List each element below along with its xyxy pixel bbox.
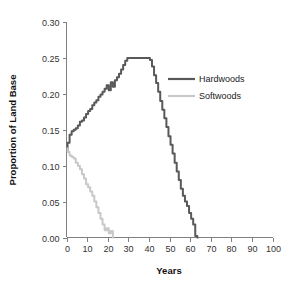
x-tick-label: 30 <box>123 244 133 254</box>
y-tick-label: 0.00 <box>42 234 60 244</box>
x-tick-label: 0 <box>65 244 70 254</box>
x-tick-label: 100 <box>266 244 281 254</box>
chart-container: 0.000.050.100.150.200.250.30 01020304050… <box>0 0 289 296</box>
y-tick-label: 0.05 <box>42 198 60 208</box>
y-tick-label: 0.20 <box>42 90 60 100</box>
legend-label-softwoods: Softwoods <box>199 91 242 101</box>
x-axis-title: Years <box>156 265 181 276</box>
x-tick-label: 50 <box>165 244 175 254</box>
x-tick-label: 10 <box>82 244 92 254</box>
line-chart: 0.000.050.100.150.200.250.30 01020304050… <box>0 0 289 296</box>
y-tick-label: 0.25 <box>42 54 60 64</box>
legend-label-hardwoods: Hardwoods <box>199 74 245 84</box>
y-axis-title: Proportion of Land Base <box>7 75 18 186</box>
x-tick-label: 80 <box>226 244 236 254</box>
y-tick-label: 0.15 <box>42 126 60 136</box>
x-tick-label: 90 <box>247 244 257 254</box>
y-tick-label: 0.30 <box>42 18 60 28</box>
y-tick-label: 0.10 <box>42 162 60 172</box>
x-tick-label: 70 <box>206 244 216 254</box>
x-tick-label: 60 <box>185 244 195 254</box>
x-tick-label: 20 <box>103 244 113 254</box>
x-tick-label: 40 <box>144 244 154 254</box>
